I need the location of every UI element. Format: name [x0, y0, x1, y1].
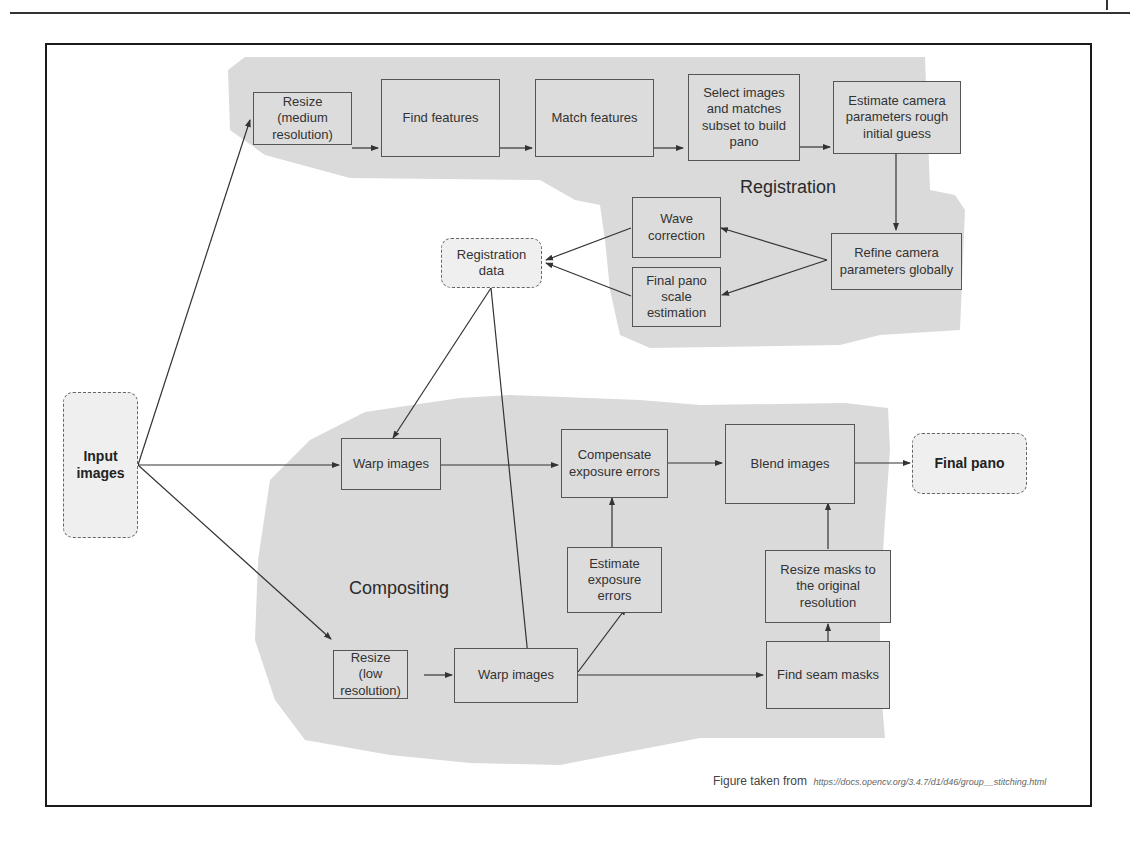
node-final-pano: Final pano: [912, 433, 1027, 494]
node-input-images: Input images: [63, 392, 138, 538]
node-resize-low: Resize (low resolution): [333, 650, 408, 699]
node-match-features: Match features: [535, 79, 654, 157]
node-blend-images: Blend images: [725, 424, 855, 504]
node-resize-masks: Resize masks to the original resolution: [765, 550, 891, 623]
node-warp-images-bottom: Warp images: [454, 648, 578, 703]
node-registration-data: Registration data: [441, 238, 542, 288]
node-compensate-exposure: Compensate exposure errors: [561, 429, 668, 498]
node-select-images: Select images and matches subset to buil…: [688, 74, 800, 161]
node-resize-medium: Resize (medium resolution): [253, 92, 352, 145]
figure-caption: Figure taken from https://docs.opencv.or…: [713, 774, 1046, 788]
registration-label: Registration: [740, 177, 836, 198]
node-estimate-camera: Estimate camera parameters rough initial…: [833, 81, 961, 154]
node-refine-camera: Refine camera parameters globally: [831, 233, 962, 290]
node-final-pano-scale: Final pano scale estimation: [632, 267, 721, 327]
node-find-features: Find features: [381, 79, 500, 157]
node-wave-correction: Wave correction: [632, 197, 721, 258]
compositing-label: Compositing: [349, 578, 449, 599]
node-estimate-exposure: Estimate exposure errors: [567, 547, 662, 613]
caption-prefix: Figure taken from: [713, 774, 807, 788]
node-find-seam-masks: Find seam masks: [766, 641, 890, 709]
caption-url[interactable]: https://docs.opencv.org/3.4.7/d1/d46/gro…: [813, 777, 1046, 787]
node-warp-images-top: Warp images: [341, 438, 441, 490]
